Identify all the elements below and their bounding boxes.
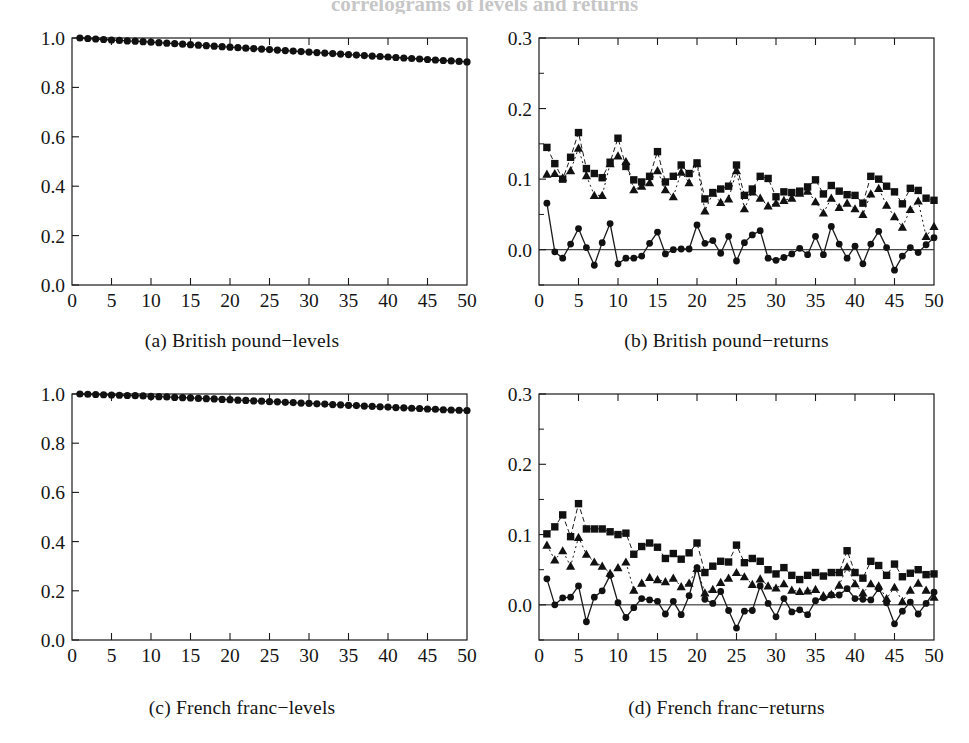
data-point-circle — [266, 46, 273, 53]
data-point-square — [599, 174, 606, 181]
data-point-circle — [551, 601, 558, 608]
data-point-triangle — [874, 184, 883, 192]
data-point-circle — [607, 220, 614, 227]
x-tick-label: 30 — [766, 645, 786, 666]
data-point-circle — [694, 222, 701, 229]
data-point-circle — [583, 244, 590, 251]
data-point-circle — [424, 405, 431, 412]
series-circle — [76, 34, 470, 65]
data-point-circle — [773, 257, 780, 264]
data-point-circle — [733, 625, 740, 632]
data-point-triangle — [819, 591, 828, 599]
data-point-square — [788, 572, 795, 579]
data-point-triangle — [590, 191, 599, 199]
data-point-triangle — [598, 562, 607, 570]
data-point-square — [551, 523, 558, 530]
data-point-square — [622, 529, 629, 536]
data-point-circle — [298, 400, 305, 407]
y-tick-label: 0.8 — [41, 433, 65, 454]
data-point-circle — [875, 228, 882, 235]
data-point-square — [591, 525, 598, 532]
data-point-square — [741, 559, 748, 566]
panel-b-british-pound-returns: 051015202530354045500.00.10.20.3 (b) Bri… — [484, 0, 969, 372]
data-point-circle — [567, 241, 574, 248]
data-point-square — [930, 197, 937, 204]
data-point-circle — [686, 246, 693, 253]
chart-svg-panel-d: 051015202530354045500.00.10.20.3 — [484, 372, 969, 743]
data-point-square — [654, 544, 661, 551]
data-point-square — [907, 570, 914, 577]
data-point-circle — [931, 234, 938, 241]
data-point-circle — [717, 588, 724, 595]
data-point-triangle — [914, 578, 923, 586]
data-point-square — [764, 566, 771, 573]
series-circle — [544, 200, 938, 274]
data-point-circle — [100, 391, 107, 398]
data-point-circle — [804, 251, 811, 258]
data-point-triangle — [653, 166, 662, 174]
data-point-square — [725, 558, 732, 565]
data-point-circle — [615, 260, 622, 267]
data-point-circle — [725, 607, 732, 614]
data-point-circle — [670, 246, 677, 253]
data-point-square — [812, 176, 819, 183]
data-point-triangle — [819, 208, 828, 216]
x-tick-label: 25 — [727, 290, 747, 311]
data-point-triangle — [835, 203, 844, 211]
data-point-circle — [923, 241, 930, 248]
data-point-square — [725, 183, 732, 190]
data-point-triangle — [629, 185, 638, 193]
data-point-square — [851, 569, 858, 576]
data-point-triangle — [621, 157, 630, 165]
data-point-triangle — [898, 597, 907, 605]
data-point-triangle — [795, 587, 804, 595]
data-point-circle — [709, 600, 716, 607]
data-point-circle — [234, 397, 241, 404]
data-point-triangle — [613, 151, 622, 159]
x-tick-label: 35 — [339, 645, 359, 666]
y-tick-label: 0.6 — [41, 482, 66, 503]
data-point-triangle — [882, 201, 891, 209]
data-point-circle — [804, 611, 811, 618]
data-point-circle — [741, 608, 748, 615]
data-point-circle — [116, 392, 123, 399]
data-point-circle — [242, 45, 249, 52]
data-point-square — [804, 572, 811, 579]
data-point-triangle — [661, 577, 670, 585]
data-point-circle — [638, 595, 645, 602]
data-point-circle — [76, 390, 83, 397]
data-point-circle — [749, 607, 756, 614]
data-point-circle — [559, 594, 566, 601]
data-point-circle — [725, 233, 732, 240]
x-tick-label: 0 — [534, 645, 544, 666]
data-point-circle — [116, 37, 123, 44]
data-point-triangle — [811, 585, 820, 593]
data-point-circle — [163, 40, 170, 47]
data-point-square — [757, 173, 764, 180]
data-point-triangle — [890, 212, 899, 220]
data-point-square — [701, 195, 708, 202]
data-point-square — [606, 528, 613, 535]
data-point-triangle — [661, 185, 670, 193]
data-point-circle — [796, 606, 803, 613]
x-tick-label: 0 — [67, 645, 77, 666]
data-point-circle — [408, 405, 415, 412]
data-point-circle — [463, 58, 470, 65]
data-point-circle — [108, 36, 115, 43]
data-point-circle — [883, 244, 890, 251]
data-point-circle — [290, 47, 297, 54]
data-point-circle — [567, 594, 574, 601]
data-point-triangle — [724, 574, 733, 582]
data-point-circle — [305, 48, 312, 55]
data-point-square — [867, 558, 874, 565]
data-point-circle — [599, 239, 606, 246]
data-point-square — [685, 549, 692, 556]
data-point-triangle — [637, 578, 646, 586]
plot-area-c: 051015202530354045500.00.20.40.60.81.0 — [0, 372, 484, 743]
data-point-square — [875, 175, 882, 182]
data-point-square — [930, 570, 937, 577]
data-point-circle — [828, 223, 835, 230]
data-point-triangle — [621, 557, 630, 565]
data-point-circle — [907, 599, 914, 606]
data-point-circle — [305, 400, 312, 407]
